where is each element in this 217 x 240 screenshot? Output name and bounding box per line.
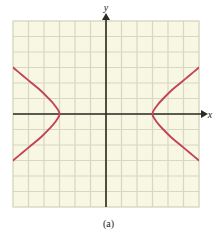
y-axis-label: y bbox=[103, 2, 109, 13]
arrow-up-icon bbox=[102, 13, 110, 20]
figure-panel: x y (a) bbox=[0, 0, 217, 240]
x-axis-label: x bbox=[207, 109, 213, 120]
hyperbola-graph: x y bbox=[0, 0, 217, 240]
figure-caption: (a) bbox=[0, 218, 217, 230]
